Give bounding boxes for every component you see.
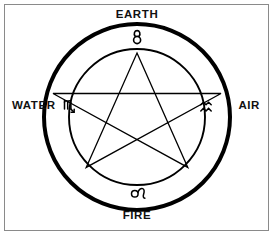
- pentagram-wheel-graphic: [0, 0, 274, 236]
- pentagram-diagram-page: EARTH AIR FIRE WATER: [0, 0, 274, 236]
- taurus-glyph: [134, 31, 141, 44]
- element-label-air: AIR: [238, 100, 260, 112]
- leo-glyph: [132, 188, 145, 198]
- aquarius-glyph: [201, 102, 211, 111]
- element-label-earth: EARTH: [0, 9, 274, 21]
- element-label-fire: FIRE: [0, 210, 274, 222]
- inner-circle: [69, 49, 205, 185]
- element-label-water: WATER: [12, 100, 56, 112]
